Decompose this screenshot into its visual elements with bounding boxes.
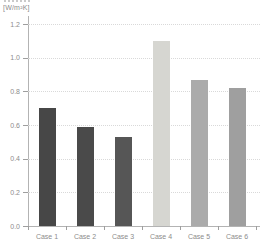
bar (153, 41, 170, 226)
x-tick-mark (180, 226, 181, 230)
x-tick-mark (28, 226, 29, 230)
y-tick-mark (23, 125, 28, 126)
y-tick-label: 0.8 (0, 87, 20, 96)
y-tick-mark (23, 24, 28, 25)
gridline (28, 91, 260, 92)
gridline (28, 58, 260, 59)
y-tick-mark (23, 58, 28, 59)
x-tick-mark (104, 226, 105, 230)
gridline (28, 192, 260, 193)
bar (115, 137, 132, 226)
x-tick-mark (142, 226, 143, 230)
bar (191, 80, 208, 226)
gridline (28, 24, 260, 25)
x-tick-mark (66, 226, 67, 230)
y-tick-label: 0.4 (0, 154, 20, 163)
y-tick-mark (23, 91, 28, 92)
y-tick-label: 1.0 (0, 53, 20, 62)
bar (229, 88, 246, 226)
y-axis-unit-label: [W/m²K] (3, 4, 30, 11)
gridline (28, 125, 260, 126)
x-tick-mark (256, 226, 257, 230)
bar-chart: [W/m²K] 0.00.20.40.60.81.01.2Case 1Case … (0, 0, 260, 243)
bar (39, 108, 56, 226)
x-tick-label: Case 5 (180, 232, 218, 241)
bar (77, 127, 94, 226)
x-tick-mark (218, 226, 219, 230)
y-axis-line (28, 16, 29, 226)
y-tick-mark (23, 159, 28, 160)
x-tick-label: Case 6 (218, 232, 256, 241)
x-axis-line (27, 226, 260, 227)
y-tick-label: 0.2 (0, 188, 20, 197)
x-tick-label: Case 2 (66, 232, 104, 241)
x-tick-label: Case 4 (142, 232, 180, 241)
x-tick-label: Case 3 (104, 232, 142, 241)
y-tick-label: 0.6 (0, 121, 20, 130)
y-tick-label: 0.0 (0, 222, 20, 231)
y-tick-label: 1.2 (0, 20, 20, 29)
gridline (28, 159, 260, 160)
clipped-text-fragment (4, 0, 30, 2)
y-tick-mark (23, 192, 28, 193)
x-tick-label: Case 1 (28, 232, 66, 241)
